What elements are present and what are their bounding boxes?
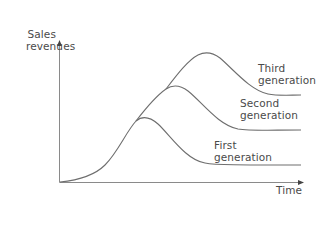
second-generation-label: Second generation [240, 97, 298, 121]
third-generation-label: Third generation [258, 62, 316, 86]
first-generation-label: First generation [214, 139, 272, 163]
third-generation-label-line1: Third [258, 62, 316, 74]
y-axis-label: Sales revenues [26, 28, 56, 52]
second-generation-label-line1: Second [240, 97, 298, 109]
third-generation-label-line2: generation [258, 74, 316, 86]
first-generation-label-line1: First [214, 139, 272, 151]
y-axis-label-line2: revenues [26, 40, 56, 52]
x-axis-label: Time [276, 184, 302, 196]
first-generation-label-line2: generation [214, 151, 272, 163]
y-axis-label-line1: Sales [26, 28, 56, 40]
second-generation-label-line2: generation [240, 109, 298, 121]
